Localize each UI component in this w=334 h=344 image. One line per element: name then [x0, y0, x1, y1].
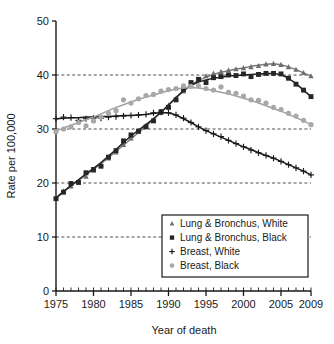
x-tick-label-2005: 2005 — [269, 298, 293, 310]
data-point — [121, 97, 126, 102]
y-tick-label-40: 40 — [37, 69, 49, 81]
data-point — [76, 120, 81, 125]
y-axis-title: Rate per 100,000 — [5, 113, 17, 198]
data-point — [249, 74, 254, 79]
data-point — [234, 73, 239, 78]
data-point — [293, 113, 298, 118]
data-point — [256, 98, 261, 103]
data-point — [301, 118, 306, 123]
data-point — [84, 170, 89, 175]
y-tick-label-10: 10 — [37, 231, 49, 243]
data-point — [278, 107, 283, 112]
x-tick-label-1975: 1975 — [44, 298, 68, 310]
x-tick-label-1985: 1985 — [119, 298, 143, 310]
data-point — [196, 83, 201, 88]
legend-marker-3 — [170, 263, 175, 268]
x-tick-label-2009: 2009 — [299, 298, 323, 310]
x-axis-title: Year of death — [151, 324, 216, 336]
x-tick-label-1990: 1990 — [156, 298, 180, 310]
data-point — [264, 71, 269, 76]
data-point — [61, 190, 66, 195]
data-point — [106, 111, 111, 116]
data-point — [54, 196, 59, 201]
data-point — [204, 80, 209, 85]
data-point — [196, 77, 201, 82]
data-point — [174, 97, 179, 102]
data-point — [203, 86, 208, 91]
data-point — [128, 100, 133, 105]
figure-background — [0, 0, 334, 344]
data-point — [151, 118, 156, 123]
data-point — [99, 164, 104, 169]
data-point — [106, 155, 111, 160]
x-tick-label-1980: 1980 — [81, 298, 105, 310]
y-tick-label-20: 20 — [37, 177, 49, 189]
chart-legend: Lung & Bronchus, WhiteLung & Bronchus, B… — [162, 215, 308, 277]
data-point — [166, 87, 171, 92]
data-point — [309, 94, 314, 99]
data-point — [211, 88, 216, 93]
legend-marker-1 — [170, 235, 174, 239]
data-point — [91, 167, 96, 172]
data-point — [166, 105, 171, 110]
data-point — [151, 92, 156, 97]
y-tick-label-50: 50 — [37, 15, 49, 27]
legend-label-1: Lung & Bronchus, Black — [180, 232, 288, 243]
data-point — [144, 124, 149, 129]
data-point — [294, 82, 299, 87]
data-point — [286, 111, 291, 116]
x-tick-label-1995: 1995 — [194, 298, 218, 310]
data-point — [271, 71, 276, 76]
data-point — [279, 71, 284, 76]
data-point — [233, 91, 238, 96]
data-point — [226, 73, 231, 78]
data-point — [218, 84, 223, 89]
mortality-rate-line-chart: 01020304050 1975198019851990199520002005… — [0, 0, 334, 344]
data-point — [256, 72, 261, 77]
data-point — [301, 88, 306, 93]
legend-label-2: Breast, White — [180, 246, 240, 257]
data-point — [241, 71, 246, 76]
data-point — [263, 100, 268, 105]
data-point — [173, 86, 178, 91]
data-point — [308, 122, 313, 127]
data-point — [226, 90, 231, 95]
data-point — [98, 115, 103, 120]
legend-label-0: Lung & Bronchus, White — [180, 218, 288, 229]
data-point — [121, 138, 126, 143]
data-point — [211, 75, 216, 80]
data-point — [271, 105, 276, 110]
y-tick-label-0: 0 — [43, 285, 49, 297]
data-point — [69, 181, 74, 186]
legend-label-3: Breast, Black — [180, 260, 240, 271]
data-point — [129, 132, 134, 137]
data-point — [136, 129, 141, 134]
data-point — [53, 129, 58, 134]
data-point — [286, 76, 291, 81]
data-point — [61, 126, 66, 131]
chart-figure: 01020304050 1975198019851990199520002005… — [0, 0, 334, 344]
data-point — [219, 74, 224, 79]
data-point — [113, 108, 118, 113]
data-point — [114, 148, 119, 153]
data-point — [188, 84, 193, 89]
data-point — [158, 89, 163, 94]
data-point — [76, 180, 81, 185]
data-point — [83, 123, 88, 128]
data-point — [68, 124, 73, 129]
data-point — [241, 93, 246, 98]
data-point — [143, 93, 148, 98]
data-point — [248, 97, 253, 102]
data-point — [91, 118, 96, 123]
y-tick-label-30: 30 — [37, 123, 49, 135]
data-point — [181, 83, 186, 88]
data-point — [136, 96, 141, 101]
x-tick-label-2000: 2000 — [231, 298, 255, 310]
